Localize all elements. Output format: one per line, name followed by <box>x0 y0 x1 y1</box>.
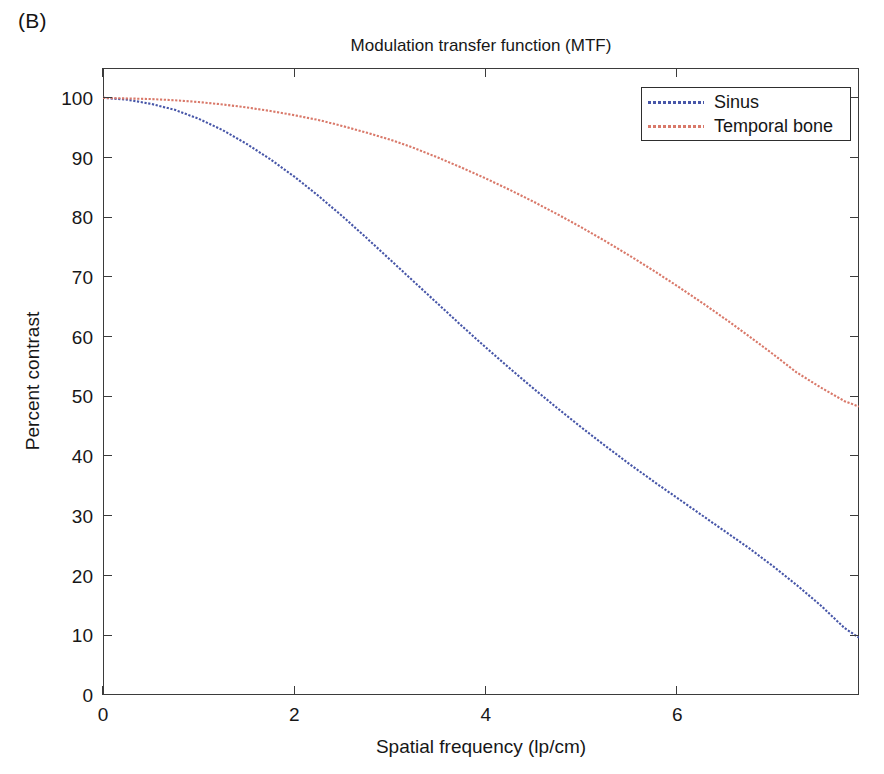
y-tick-mark-right <box>850 336 859 337</box>
y-tick-mark <box>103 336 112 337</box>
y-tick-mark <box>103 515 112 516</box>
figure-root: (B) Modulation transfer function (MTF) 0… <box>0 0 884 774</box>
y-tick-label: 90 <box>31 149 93 168</box>
legend-label-temporal-bone: Temporal bone <box>714 117 833 135</box>
y-tick-mark <box>103 455 112 456</box>
chart-title: Modulation transfer function (MTF) <box>103 36 859 56</box>
y-tick-mark-right <box>850 575 859 576</box>
y-tick-mark <box>103 575 112 576</box>
x-tick-mark <box>485 686 486 695</box>
y-tick-mark-right <box>850 396 859 397</box>
y-tick-mark <box>103 157 112 158</box>
legend-item-temporal-bone: Temporal bone <box>648 114 833 138</box>
y-tick-label: 20 <box>31 567 93 586</box>
legend-swatch-temporal-bone <box>648 125 704 128</box>
y-tick-mark-right <box>850 694 859 695</box>
y-tick-mark-right <box>850 217 859 218</box>
y-tick-mark <box>103 694 112 695</box>
y-tick-mark-right <box>850 276 859 277</box>
series-curve-temporal-bone <box>103 98 859 407</box>
y-tick-mark-right <box>850 97 859 98</box>
x-tick-label: 0 <box>78 705 128 724</box>
x-tick-label: 6 <box>652 705 702 724</box>
y-tick-label: 10 <box>31 626 93 645</box>
legend-swatch-sinus <box>648 101 704 104</box>
y-tick-mark <box>103 97 112 98</box>
x-tick-mark-top <box>676 68 677 77</box>
x-tick-label: 4 <box>461 705 511 724</box>
x-tick-mark-top <box>294 68 295 77</box>
y-tick-mark <box>103 396 112 397</box>
y-tick-mark <box>103 276 112 277</box>
panel-label: (B) <box>18 10 47 31</box>
y-tick-label: 80 <box>31 208 93 227</box>
x-tick-label: 2 <box>269 705 319 724</box>
y-tick-label: 100 <box>31 89 93 108</box>
x-tick-mark-top <box>102 68 103 77</box>
y-tick-mark-right <box>850 455 859 456</box>
x-tick-mark-top <box>485 68 486 77</box>
legend-label-sinus: Sinus <box>714 93 759 111</box>
legend: Sinus Temporal bone <box>641 87 851 141</box>
x-axis-label: Spatial frequency (lp/cm) <box>103 736 859 758</box>
y-tick-mark-right <box>850 635 859 636</box>
series-curve-sinus <box>103 98 859 638</box>
y-tick-mark <box>103 217 112 218</box>
y-tick-label: 0 <box>31 686 93 705</box>
y-axis-label: Percent contrast <box>22 241 44 521</box>
legend-item-sinus: Sinus <box>648 90 759 114</box>
y-tick-mark-right <box>850 157 859 158</box>
y-tick-mark-right <box>850 515 859 516</box>
plot-curves <box>103 68 859 695</box>
x-tick-mark <box>676 686 677 695</box>
y-tick-mark <box>103 635 112 636</box>
x-tick-mark <box>102 686 103 695</box>
x-tick-mark <box>294 686 295 695</box>
